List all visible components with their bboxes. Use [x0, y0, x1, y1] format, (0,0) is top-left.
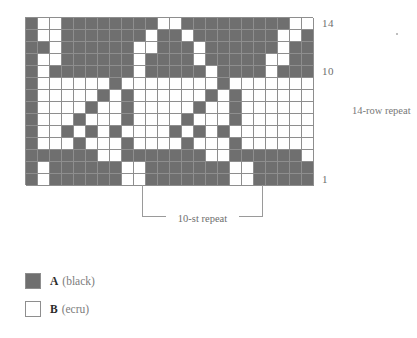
- chart-cell-r6-c23[interactable]: [290, 114, 302, 126]
- chart-cell-r10-c21[interactable]: [266, 66, 278, 78]
- chart-cell-r3-c12[interactable]: [158, 150, 170, 162]
- chart-cell-r12-c8[interactable]: [110, 42, 122, 54]
- chart-cell-r9-c16[interactable]: [206, 78, 218, 90]
- chart-cell-r2-c18[interactable]: [230, 162, 242, 174]
- chart-cell-r7-c7[interactable]: [98, 102, 110, 114]
- chart-cell-r5-c13[interactable]: [170, 126, 182, 138]
- chart-cell-r2-c1[interactable]: [26, 162, 38, 174]
- chart-cell-r11-c10[interactable]: [134, 54, 146, 66]
- chart-cell-r14-c14[interactable]: [182, 18, 194, 30]
- chart-cell-r10-c16[interactable]: [206, 66, 218, 78]
- chart-cell-r4-c8[interactable]: [110, 138, 122, 150]
- chart-cell-r5-c23[interactable]: [290, 126, 302, 138]
- chart-cell-r14-c11[interactable]: [146, 18, 158, 30]
- chart-cell-r3-c6[interactable]: [86, 150, 98, 162]
- chart-cell-r5-c24[interactable]: [302, 126, 314, 138]
- chart-cell-r13-c14[interactable]: [182, 30, 194, 42]
- chart-cell-r9-c7[interactable]: [98, 78, 110, 90]
- chart-cell-r12-c16[interactable]: [206, 42, 218, 54]
- chart-cell-r2-c11[interactable]: [146, 162, 158, 174]
- chart-cell-r13-c22[interactable]: [278, 30, 290, 42]
- chart-cell-r6-c4[interactable]: [62, 114, 74, 126]
- chart-cell-r5-c9[interactable]: [122, 126, 134, 138]
- chart-cell-r7-c2[interactable]: [38, 102, 50, 114]
- chart-cell-r8-c20[interactable]: [254, 90, 266, 102]
- chart-cell-r4-c21[interactable]: [266, 138, 278, 150]
- chart-cell-r3-c19[interactable]: [242, 150, 254, 162]
- chart-cell-r5-c21[interactable]: [266, 126, 278, 138]
- chart-cell-r1-c3[interactable]: [50, 174, 62, 186]
- chart-cell-r8-c1[interactable]: [26, 90, 38, 102]
- chart-cell-r4-c18[interactable]: [230, 138, 242, 150]
- chart-cell-r13-c13[interactable]: [170, 30, 182, 42]
- chart-cell-r7-c10[interactable]: [134, 102, 146, 114]
- chart-cell-r5-c19[interactable]: [242, 126, 254, 138]
- chart-cell-r8-c8[interactable]: [110, 90, 122, 102]
- chart-cell-r7-c18[interactable]: [230, 102, 242, 114]
- chart-cell-r13-c15[interactable]: [194, 30, 206, 42]
- chart-cell-r3-c4[interactable]: [62, 150, 74, 162]
- chart-cell-r9-c17[interactable]: [218, 78, 230, 90]
- chart-cell-r12-c18[interactable]: [230, 42, 242, 54]
- chart-cell-r6-c24[interactable]: [302, 114, 314, 126]
- chart-cell-r3-c8[interactable]: [110, 150, 122, 162]
- chart-cell-r9-c24[interactable]: [302, 78, 314, 90]
- chart-cell-r3-c10[interactable]: [134, 150, 146, 162]
- chart-cell-r5-c20[interactable]: [254, 126, 266, 138]
- chart-cell-r14-c3[interactable]: [50, 18, 62, 30]
- chart-cell-r9-c5[interactable]: [74, 78, 86, 90]
- chart-cell-r8-c13[interactable]: [170, 90, 182, 102]
- chart-cell-r8-c23[interactable]: [290, 90, 302, 102]
- chart-cell-r14-c13[interactable]: [170, 18, 182, 30]
- chart-cell-r7-c22[interactable]: [278, 102, 290, 114]
- chart-cell-r10-c6[interactable]: [86, 66, 98, 78]
- chart-cell-r4-c2[interactable]: [38, 138, 50, 150]
- chart-cell-r12-c19[interactable]: [242, 42, 254, 54]
- chart-cell-r2-c24[interactable]: [302, 162, 314, 174]
- chart-cell-r6-c14[interactable]: [182, 114, 194, 126]
- chart-cell-r13-c16[interactable]: [206, 30, 218, 42]
- chart-cell-r14-c19[interactable]: [242, 18, 254, 30]
- chart-cell-r1-c21[interactable]: [266, 174, 278, 186]
- chart-cell-r1-c9[interactable]: [122, 174, 134, 186]
- chart-cell-r4-c17[interactable]: [218, 138, 230, 150]
- chart-cell-r5-c11[interactable]: [146, 126, 158, 138]
- chart-cell-r1-c4[interactable]: [62, 174, 74, 186]
- chart-cell-r2-c7[interactable]: [98, 162, 110, 174]
- chart-cell-r4-c13[interactable]: [170, 138, 182, 150]
- chart-cell-r11-c17[interactable]: [218, 54, 230, 66]
- chart-cell-r1-c22[interactable]: [278, 174, 290, 186]
- chart-cell-r14-c5[interactable]: [74, 18, 86, 30]
- chart-cell-r2-c19[interactable]: [242, 162, 254, 174]
- chart-cell-r8-c19[interactable]: [242, 90, 254, 102]
- chart-cell-r3-c22[interactable]: [278, 150, 290, 162]
- chart-cell-r10-c2[interactable]: [38, 66, 50, 78]
- chart-cell-r11-c8[interactable]: [110, 54, 122, 66]
- chart-cell-r4-c6[interactable]: [86, 138, 98, 150]
- chart-cell-r6-c9[interactable]: [122, 114, 134, 126]
- chart-cell-r9-c3[interactable]: [50, 78, 62, 90]
- chart-cell-r5-c16[interactable]: [206, 126, 218, 138]
- chart-cell-r7-c15[interactable]: [194, 102, 206, 114]
- chart-cell-r8-c12[interactable]: [158, 90, 170, 102]
- chart-cell-r7-c9[interactable]: [122, 102, 134, 114]
- chart-cell-r12-c20[interactable]: [254, 42, 266, 54]
- chart-cell-r10-c4[interactable]: [62, 66, 74, 78]
- chart-cell-r2-c10[interactable]: [134, 162, 146, 174]
- chart-cell-r10-c15[interactable]: [194, 66, 206, 78]
- chart-cell-r11-c7[interactable]: [98, 54, 110, 66]
- chart-cell-r12-c15[interactable]: [194, 42, 206, 54]
- chart-cell-r12-c17[interactable]: [218, 42, 230, 54]
- chart-cell-r13-c2[interactable]: [38, 30, 50, 42]
- chart-cell-r1-c8[interactable]: [110, 174, 122, 186]
- chart-cell-r8-c17[interactable]: [218, 90, 230, 102]
- chart-cell-r2-c17[interactable]: [218, 162, 230, 174]
- chart-cell-r13-c4[interactable]: [62, 30, 74, 42]
- chart-cell-r10-c3[interactable]: [50, 66, 62, 78]
- chart-cell-r14-c1[interactable]: [26, 18, 38, 30]
- chart-cell-r1-c23[interactable]: [290, 174, 302, 186]
- chart-cell-r12-c11[interactable]: [146, 42, 158, 54]
- chart-cell-r2-c14[interactable]: [182, 162, 194, 174]
- chart-cell-r4-c5[interactable]: [74, 138, 86, 150]
- chart-cell-r2-c6[interactable]: [86, 162, 98, 174]
